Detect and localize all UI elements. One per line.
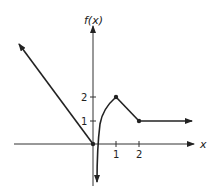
graph-svg: 1 2 1 2 f(x) x [0,0,218,192]
descending-segment [116,97,139,121]
x-tick-label-2: 2 [136,149,142,160]
x-axis-label: x [199,138,207,151]
x-tick-label-1: 1 [113,149,119,160]
point-peak [114,95,118,99]
point-origin [91,142,95,146]
function-graph: 1 2 1 2 f(x) x [0,0,218,192]
curve-segment [97,97,116,182]
y-tick-label-1: 1 [81,116,87,127]
point-2-1 [137,119,141,123]
y-tick-label-2: 2 [81,92,87,103]
y-axis-label: f(x) [84,14,103,27]
